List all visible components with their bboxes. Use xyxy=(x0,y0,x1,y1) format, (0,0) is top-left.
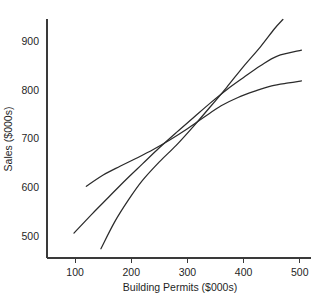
x-tick-label: 400 xyxy=(235,266,253,278)
x-axis-title: Building Permits ($000s) xyxy=(123,281,237,293)
axes-group xyxy=(47,19,311,258)
regression-band-chart: 100200300400500 500600700800900 Building… xyxy=(0,0,321,298)
curve-upper-band xyxy=(86,81,301,186)
y-tick-label: 900 xyxy=(21,35,39,47)
y-tick-label: 500 xyxy=(21,230,39,242)
chart-canvas: 100200300400500 500600700800900 Building… xyxy=(0,0,321,298)
x-tick-label: 500 xyxy=(291,266,309,278)
x-ticks-group: 100200300400500 xyxy=(66,258,308,278)
x-tick-label: 100 xyxy=(66,266,84,278)
x-tick-label: 200 xyxy=(122,266,140,278)
y-tick-label: 600 xyxy=(21,181,39,193)
y-tick-label: 800 xyxy=(21,84,39,96)
y-tick-label: 700 xyxy=(21,132,39,144)
y-axis-title: Sales ($000s) xyxy=(2,107,14,172)
x-tick-label: 300 xyxy=(179,266,197,278)
curve-fitted-line xyxy=(74,50,301,233)
curves-group xyxy=(74,19,301,248)
y-ticks-group: 500600700800900 xyxy=(21,35,39,242)
curve-lower-band xyxy=(101,19,283,248)
